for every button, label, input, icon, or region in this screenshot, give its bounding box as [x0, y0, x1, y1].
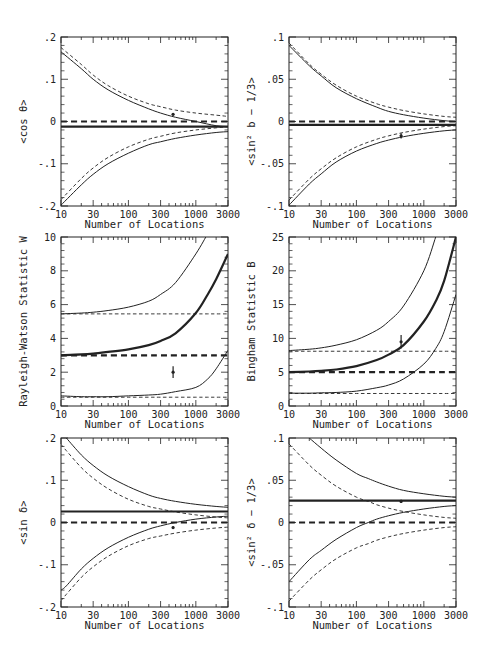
y-axis-label: <sin² b − 1/3>	[245, 77, 257, 166]
series-line	[289, 506, 456, 582]
x-tick-label: 3000	[216, 209, 240, 220]
data-point-marker	[171, 371, 174, 374]
y-tick-label: 0	[278, 116, 284, 127]
y-tick-label: 20	[272, 265, 284, 276]
y-tick-label: .1	[272, 32, 284, 43]
series-line	[61, 350, 228, 397]
data-point-marker	[399, 340, 402, 343]
y-tick-label: -.1	[38, 559, 56, 570]
series-line	[289, 444, 456, 518]
series-line	[61, 254, 228, 355]
y-tick-label: -.2	[38, 602, 56, 613]
y-tick-label: 6	[50, 299, 56, 310]
y-tick-label: -.1	[38, 158, 56, 169]
series-line	[289, 527, 456, 601]
x-axis-label: Number of Locations	[84, 418, 204, 430]
x-tick-label: 10	[283, 209, 295, 220]
series-line	[61, 127, 228, 200]
y-axis-label: <sin δ>	[17, 500, 29, 544]
x-tick-label: 3000	[444, 409, 468, 420]
data-point-marker	[171, 113, 174, 116]
y-tick-label: 8	[50, 265, 56, 276]
y-tick-label: -.2	[38, 201, 56, 212]
plot-area	[289, 438, 456, 601]
y-tick-label: 10	[272, 333, 284, 344]
x-tick-label: 10	[283, 409, 295, 420]
y-tick-label: 10	[44, 232, 56, 243]
y-tick-label: .1	[272, 433, 284, 444]
x-tick-label: 3000	[444, 209, 468, 220]
y-tick-label: 0	[50, 116, 56, 127]
x-tick-label: 10	[55, 409, 67, 420]
series-line	[309, 438, 456, 497]
x-tick-label: 10	[283, 610, 295, 621]
y-tick-label: 25	[272, 232, 284, 243]
series-line	[61, 444, 228, 518]
y-tick-label: -.05	[260, 158, 284, 169]
y-tick-label: .1	[44, 475, 56, 486]
panel-bingham: 103010030010003000Number of Locations051…	[245, 232, 468, 431]
plot-area	[61, 234, 228, 398]
series-line	[61, 52, 228, 127]
y-tick-label: 2	[50, 367, 56, 378]
chart-canvas: 103010030010003000Number of Locations-.2…	[0, 0, 489, 652]
y-tick-label: .05	[266, 74, 284, 85]
y-tick-label: 0	[50, 517, 56, 528]
x-axis-label: Number of Locations	[312, 619, 432, 631]
x-tick-label: 3000	[216, 610, 240, 621]
y-axis-label: Rayleigh-Watson Statistic W	[17, 235, 29, 406]
y-tick-label: 0	[278, 517, 284, 528]
series-line	[289, 43, 456, 117]
y-tick-label: 4	[50, 333, 56, 344]
y-axis-label: <cos θ>	[17, 99, 29, 143]
series-line	[289, 237, 456, 372]
y-axis-label: Bingham Statistic B	[245, 261, 257, 381]
x-tick-label: 3000	[216, 409, 240, 420]
series-line	[289, 45, 456, 121]
y-tick-label: -.05	[260, 559, 284, 570]
series-line	[61, 48, 228, 117]
y-tick-label: -.1	[266, 201, 284, 212]
plot-area	[61, 438, 228, 601]
panel-sin2delta: 103010030010003000Number of Locations-.1…	[245, 433, 468, 632]
plot-area	[289, 43, 456, 205]
x-tick-label: 10	[55, 209, 67, 220]
series-line	[61, 132, 228, 206]
panel-sin-delta: 103010030010003000Number of Locations-.2…	[17, 433, 240, 632]
figure-grid: 103010030010003000Number of Locations-.2…	[0, 0, 489, 652]
series-line	[61, 234, 208, 314]
x-axis-label: Number of Locations	[312, 418, 432, 430]
plot-frame	[61, 237, 228, 406]
series-line	[289, 126, 456, 200]
x-tick-label: 3000	[444, 610, 468, 621]
panel-rayleigh-watson: 103010030010003000Number of Locations024…	[17, 232, 240, 431]
plot-area	[61, 48, 228, 206]
plot-area	[289, 237, 456, 393]
x-axis-label: Number of Locations	[84, 619, 204, 631]
series-line	[66, 438, 228, 507]
y-tick-label: .1	[44, 74, 56, 85]
x-tick-label: 10	[55, 610, 67, 621]
x-axis-label: Number of Locations	[312, 218, 432, 230]
panel-cos-theta: 103010030010003000Number of Locations-.2…	[17, 32, 240, 231]
data-point-marker	[399, 500, 402, 503]
data-point-marker	[399, 134, 402, 137]
x-axis-label: Number of Locations	[84, 218, 204, 230]
y-tick-label: 15	[272, 299, 284, 310]
y-tick-label: .2	[44, 32, 56, 43]
series-line	[289, 130, 456, 205]
y-tick-label: .2	[44, 433, 56, 444]
y-tick-label: .05	[266, 475, 284, 486]
series-line	[61, 516, 228, 590]
y-tick-label: -.1	[266, 602, 284, 613]
y-tick-label: 0	[278, 401, 284, 412]
plot-frame	[289, 237, 456, 406]
panel-sin2b: 103010030010003000Number of Locations-.1…	[245, 32, 468, 231]
y-axis-label: <sin² δ − 1/3>	[245, 478, 257, 567]
data-point-marker	[171, 526, 174, 529]
y-tick-label: 5	[278, 367, 284, 378]
y-tick-label: 0	[50, 401, 56, 412]
